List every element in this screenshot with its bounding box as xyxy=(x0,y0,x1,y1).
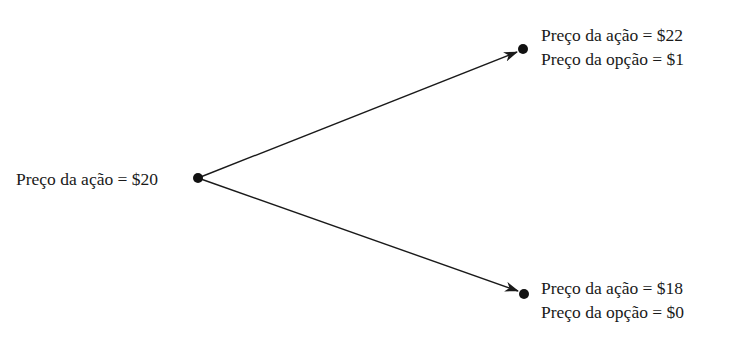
up-node xyxy=(518,44,528,54)
down-option-price: Preço da opção = $0 xyxy=(541,300,684,324)
up-stock-price: Preço da ação = $22 xyxy=(541,23,684,47)
root-node-label: Preço da ação = $20 xyxy=(16,167,158,191)
up-node-label: Preço da ação = $22 Preço da opção = $1 xyxy=(541,23,684,71)
root-stock-price: Preço da ação = $20 xyxy=(16,167,158,191)
down-branch-arrow xyxy=(198,178,518,291)
up-branch-arrow xyxy=(198,52,517,178)
down-node-label: Preço da ação = $18 Preço da opção = $0 xyxy=(541,276,684,324)
down-stock-price: Preço da ação = $18 xyxy=(541,276,684,300)
root-node xyxy=(193,173,203,183)
up-option-price: Preço da opção = $1 xyxy=(541,47,684,71)
binomial-tree-diagram: Preço da ação = $20 Preço da ação = $22 … xyxy=(0,0,730,337)
down-node xyxy=(519,289,529,299)
